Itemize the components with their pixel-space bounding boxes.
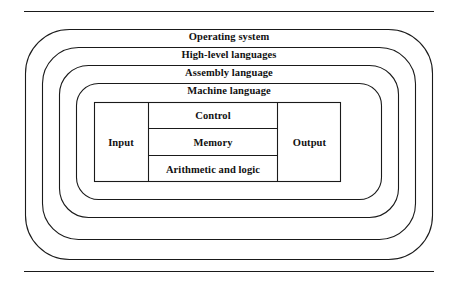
diagram-canvas: Operating system High-level languages As… [0,0,458,284]
hardware-cell-output: Output [278,102,341,182]
hardware-cell-input: Input [94,102,148,182]
layer-label-machine-language: Machine language [0,85,458,97]
layer-label-operating-system: Operating system [0,31,458,43]
hardware-cell-arithmetic-and-logic: Arithmetic and logic [148,156,278,182]
layer-label-assembly-language: Assembly language [0,67,458,79]
layer-label-high-level-languages: High-level languages [0,49,458,61]
hardware-cell-control: Control [148,102,278,128]
hardware-cell-memory: Memory [148,128,278,156]
